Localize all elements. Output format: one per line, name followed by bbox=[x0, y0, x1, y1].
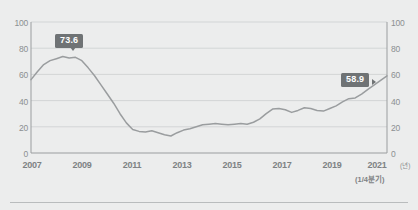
x-axis-quarter-label: (1/4분기) bbox=[355, 173, 384, 184]
annotation-badge-peak: 73.6 bbox=[55, 34, 83, 48]
x-axis-tick-2015: 2015 bbox=[209, 160, 255, 170]
x-axis-tick-2017: 2017 bbox=[259, 160, 305, 170]
annotation-badge-peak-tail bbox=[70, 47, 76, 51]
footer-divider bbox=[10, 202, 408, 203]
axis-frame bbox=[31, 22, 387, 153]
data-line-series bbox=[31, 57, 387, 136]
x-axis-tick-2013: 2013 bbox=[159, 160, 205, 170]
gridlines bbox=[31, 22, 387, 127]
annotation-badge-latest: 58.9 bbox=[341, 73, 369, 87]
x-axis-unit-year: (년) bbox=[400, 160, 410, 170]
annotation-badge-latest-tail bbox=[372, 79, 376, 85]
x-axis-tick-2021: 2021 bbox=[354, 160, 400, 170]
x-axis-tick-2019: 2019 bbox=[309, 160, 355, 170]
x-axis-tick-2011: 2011 bbox=[109, 160, 155, 170]
chart-container: 100 80 60 40 20 0 100 80 60 40 20 0 73.6… bbox=[0, 0, 418, 210]
x-axis-tick-2009: 2009 bbox=[59, 160, 105, 170]
x-axis-tick-2007: 2007 bbox=[9, 160, 55, 170]
